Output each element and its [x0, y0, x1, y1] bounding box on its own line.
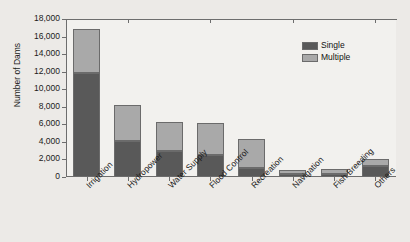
y-tick-label: 6,000 [39, 119, 60, 128]
y-tick-label: 16,000 [34, 32, 60, 41]
legend-label-multiple: Multiple [321, 53, 350, 62]
y-tick-label: 10,000 [34, 84, 60, 93]
dam-purpose-stacked-bar-chart: 02,0004,0006,0008,00010,00012,00014,0001… [0, 0, 410, 242]
legend-label-single: Single [321, 41, 345, 50]
legend-swatch-multiple [302, 54, 318, 62]
chart-legend: Single Multiple [302, 40, 350, 64]
bar-segment-multiple [114, 105, 141, 141]
y-tick-label: 12,000 [34, 67, 60, 76]
bar-segment-single [73, 73, 100, 177]
legend-item-single: Single [302, 40, 350, 51]
y-tick [62, 177, 66, 178]
bar-hydropower [114, 105, 141, 177]
y-tick-label: 4,000 [39, 137, 60, 146]
bar-irrigation [73, 29, 100, 177]
y-tick-label: 14,000 [34, 49, 60, 58]
bar-segment-multiple [73, 29, 100, 72]
legend-item-multiple: Multiple [302, 52, 350, 63]
y-axis-title: Number of Dams [12, 20, 22, 130]
bar-segment-multiple [156, 122, 183, 151]
y-tick-label: 2,000 [39, 154, 60, 163]
y-tick-label: 8,000 [39, 102, 60, 111]
y-tick-label: 0 [55, 172, 60, 181]
legend-swatch-single [302, 42, 318, 50]
y-tick-label: 18,000 [34, 14, 60, 23]
